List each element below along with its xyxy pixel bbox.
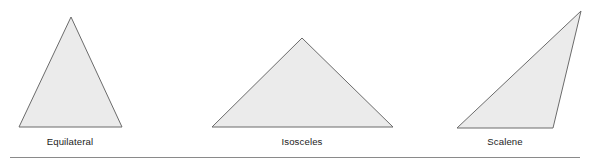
isosceles-triangle-label: Isosceles <box>281 136 322 147</box>
triangle-types-figure: Equilateral Isosceles Scalene <box>0 0 594 163</box>
scalene-triangle-label: Scalene <box>487 136 523 147</box>
equilateral-triangle-label: Equilateral <box>47 136 94 147</box>
